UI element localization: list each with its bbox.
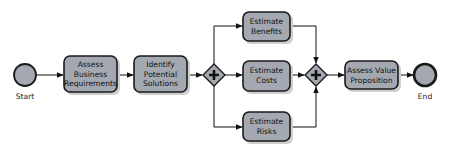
task-label-line: Estimate [250, 117, 284, 126]
start-event-circle [14, 64, 36, 86]
start-event: Start [14, 64, 36, 101]
parallel-gateway-join [305, 64, 327, 86]
parallel-gateway-split [203, 64, 225, 86]
task-label-line: Potential [144, 70, 177, 79]
task-identify-potential-solutions: Identify Potential Solutions [134, 56, 190, 95]
task-assess-value-proposition: Assess Value Proposition [345, 61, 401, 92]
task-label-line: Business [74, 70, 108, 79]
task-label-line: Identify [146, 60, 175, 69]
task-label-line: Estimate [250, 17, 284, 26]
end-event: End [414, 64, 436, 101]
task-label-line: Benefits [251, 27, 282, 36]
process-diagram: Start Assess Business Requirements Ident… [0, 0, 459, 150]
end-event-circle [414, 64, 436, 86]
flow-split-to-risks [214, 86, 242, 127]
task-estimate-risks: Estimate Risks [243, 112, 293, 144]
task-assess-business-requirements: Assess Business Requirements [64, 56, 120, 95]
flow-risks-to-join [290, 87, 316, 127]
task-label-line: Solutions [143, 79, 178, 88]
end-event-label: End [418, 92, 433, 101]
task-label-line: Assess [78, 60, 104, 69]
task-label-line: Estimate [250, 66, 284, 75]
flow-split-to-benefits [214, 26, 242, 64]
start-event-label: Start [16, 92, 35, 101]
task-label-line: Risks [257, 127, 277, 136]
task-label-line: Requirements [64, 79, 117, 88]
task-label-line: Proposition [350, 76, 392, 85]
task-estimate-benefits: Estimate Benefits [243, 12, 293, 44]
task-label-line: Costs [256, 76, 277, 85]
task-estimate-costs: Estimate Costs [243, 61, 293, 94]
flow-benefits-to-join [290, 26, 316, 63]
task-label-line: Assess Value [347, 66, 396, 75]
